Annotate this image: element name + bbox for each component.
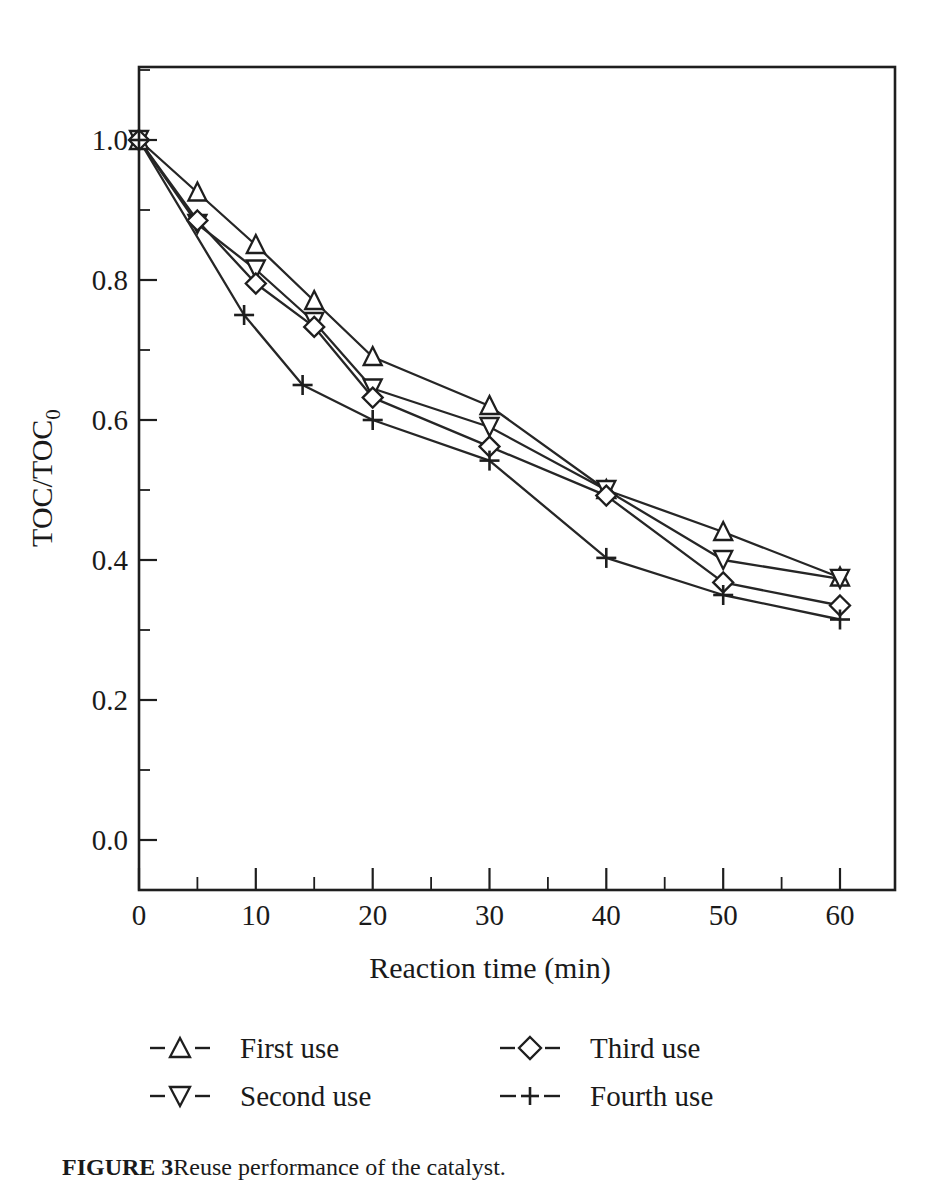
x-axis-title: Reaction time (min) [369, 951, 611, 985]
series-first-use-line [139, 140, 840, 578]
series-fourth-use-markers [234, 305, 850, 630]
y-axis-title: TOC/TOC0 [25, 409, 65, 547]
marker-triangle-up [714, 522, 732, 540]
legend-label-first-use: First use [240, 1032, 339, 1064]
triangle-up-icon [170, 1038, 190, 1057]
series-first-use [139, 140, 849, 586]
series-second-use [139, 140, 849, 588]
marker-triangle-down [481, 418, 499, 436]
series-second-use-line [139, 140, 840, 579]
series-second-use-markers [188, 215, 849, 588]
legend-item-third-use[interactable]: Third use [500, 1032, 700, 1064]
marker-triangle-up [247, 235, 265, 253]
x-tick-label-10: 10 [241, 899, 270, 931]
legend-label-fourth-use: Fourth use [590, 1080, 713, 1112]
marker-plus [363, 410, 383, 430]
triangle-down-icon [170, 1087, 190, 1106]
x-tick-label-40: 40 [592, 899, 621, 931]
x-tick-label-30: 30 [475, 899, 504, 931]
y-tick-label-0.8: 0.8 [92, 264, 128, 296]
chart-legend: First use Second use Third use [150, 1032, 713, 1112]
origin-marker-cluster [129, 130, 149, 150]
svg-text:TOC/TOC0: TOC/TOC0 [25, 409, 65, 547]
marker-plus [830, 610, 850, 630]
marker-triangle-up [188, 183, 206, 201]
series-fourth-use-line [139, 140, 840, 620]
y-axis-title-label: TOC/TOC [25, 420, 58, 547]
diamond-icon [519, 1037, 541, 1059]
axes-frame [139, 67, 895, 890]
figure-caption-prefix: FIGURE 3 [62, 1154, 173, 1180]
figure-caption-body: Reuse performance of the catalyst. [173, 1154, 506, 1180]
series-first-use-markers [188, 183, 849, 586]
plot-frame [139, 67, 895, 890]
x-tick-label-50: 50 [709, 899, 738, 931]
y-tick-label-0.6: 0.6 [92, 404, 128, 436]
x-tick-labels: 0 10 20 30 40 50 60 [132, 899, 855, 931]
y-axis-title-subscript: 0 [41, 409, 65, 420]
x-tick-label-20: 20 [358, 899, 387, 931]
x-tick-label-60: 60 [826, 899, 855, 931]
marker-plus [713, 585, 733, 605]
series-third-use [139, 140, 850, 616]
series-fourth-use [139, 140, 850, 630]
plus-icon [521, 1087, 539, 1105]
legend-label-second-use: Second use [240, 1080, 371, 1112]
y-axis-ticks [139, 70, 157, 840]
y-tick-labels: 1.0 0.8 0.6 0.4 0.2 0.0 [92, 124, 129, 856]
y-tick-label-0.0: 0.0 [92, 824, 128, 856]
legend-item-fourth-use[interactable]: Fourth use [500, 1080, 713, 1112]
y-tick-label-0.4: 0.4 [92, 544, 129, 576]
marker-diamond [596, 486, 616, 506]
x-axis-ticks [139, 868, 840, 890]
figure-caption: FIGURE 3Reuse performance of the catalys… [62, 1152, 922, 1182]
x-tick-label-0: 0 [132, 899, 147, 931]
y-tick-label-0.2: 0.2 [92, 684, 128, 716]
legend-label-third-use: Third use [590, 1032, 700, 1064]
y-tick-label-1.0: 1.0 [92, 124, 128, 156]
legend-item-first-use[interactable]: First use [150, 1032, 339, 1064]
marker-triangle-up [481, 396, 499, 414]
legend-item-second-use[interactable]: Second use [150, 1080, 371, 1112]
x-axis-title-label: Reaction time (min) [369, 951, 611, 985]
series-third-use-markers [187, 211, 850, 616]
